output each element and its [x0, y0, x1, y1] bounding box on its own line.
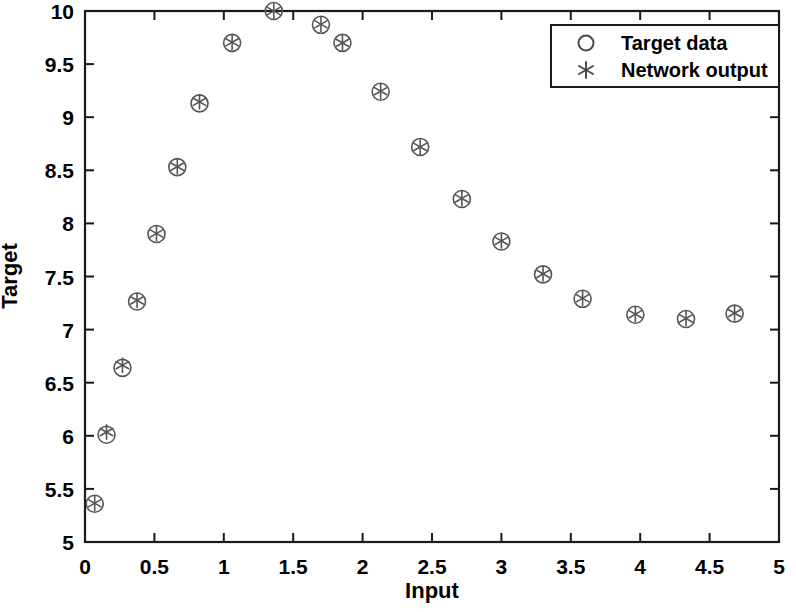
y-tick-label: 7 — [28, 319, 74, 340]
legend-label-target-data: Target data — [621, 32, 728, 54]
plot-frame — [85, 11, 779, 542]
x-tick-label: 2 — [357, 556, 369, 577]
x-tick-label: 3.5 — [556, 556, 585, 577]
x-tick-label: 1.5 — [279, 556, 308, 577]
y-tick-label: 7.5 — [28, 266, 74, 287]
x-axis-title: Input — [405, 578, 459, 604]
x-tick-label: 0.5 — [140, 556, 169, 577]
x-tick-label: 5 — [773, 556, 785, 577]
x-tick-label: 4.5 — [695, 556, 724, 577]
scatter-chart-figure: Target data Network output 00.511.522.53… — [0, 0, 796, 612]
y-tick-label: 10 — [28, 1, 74, 22]
y-tick-label: 5 — [28, 532, 74, 553]
y-axis-title: Target — [0, 243, 23, 309]
y-tick-label: 9.5 — [28, 54, 74, 75]
x-tick-label: 2.5 — [417, 556, 446, 577]
x-tick-label: 1 — [218, 556, 230, 577]
legend: Target data Network output — [551, 25, 779, 87]
legend-label-network-output: Network output — [621, 59, 768, 81]
y-tick-label: 6.5 — [28, 372, 74, 393]
plot-canvas: Target data Network output — [0, 0, 796, 612]
y-tick-label: 5.5 — [28, 478, 74, 499]
x-tick-label: 4 — [634, 556, 646, 577]
x-tick-label: 0 — [79, 556, 91, 577]
x-tick-label: 3 — [496, 556, 508, 577]
y-tick-label: 8.5 — [28, 160, 74, 181]
y-tick-label: 6 — [28, 425, 74, 446]
y-tick-label: 9 — [28, 107, 74, 128]
y-tick-label: 8 — [28, 213, 74, 234]
